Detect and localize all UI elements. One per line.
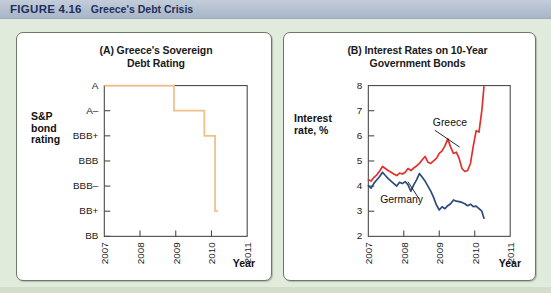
- panel-b-x-tick-label: 2010: [470, 242, 481, 265]
- panel-b-y-tick-label: 7: [357, 105, 363, 116]
- panel-b-x-tick-label: 2009: [434, 242, 445, 265]
- figure-header-text: FIGURE 4.16 Greece's Debt Crisis: [10, 3, 193, 15]
- panel-b-y-tick-label: 8: [357, 80, 363, 91]
- panel-a-y-tick-label: BBB+: [73, 130, 99, 141]
- panel-a-y-tick-label: A–: [86, 105, 99, 116]
- panel-b-germany-label: Germany: [380, 194, 424, 205]
- panel-b-plot: 234567820072008200920102011GreeceGermany: [284, 33, 535, 280]
- panel-b-y-tick-label: 5: [357, 155, 363, 166]
- figure-header-bar: FIGURE 4.16 Greece's Debt Crisis: [0, 0, 551, 19]
- panel-b-x-tick-label: 2011: [505, 242, 516, 264]
- panel-a-x-tick-label: 2009: [171, 242, 182, 265]
- panel-b-x-tick-label: 2007: [363, 242, 374, 265]
- panel-a-y-tick-label: BBB–: [73, 180, 99, 191]
- panel-b-x-tick-label: 2008: [399, 242, 410, 265]
- panel-b-greece-label: Greece: [433, 117, 467, 128]
- panel-a-y-tick-label: BB: [85, 230, 99, 241]
- panel-b-plot-frame: [368, 86, 510, 237]
- panel-a-x-tick-label: 2007: [99, 242, 110, 265]
- figure-number: 4.16: [58, 3, 81, 15]
- panel-a-plot: AA–BBB+BBBBBB–BB+BB20072008200920102011: [17, 33, 271, 280]
- panel-b-y-tick-label: 3: [357, 205, 363, 216]
- panel-a-y-tick-label: A: [92, 80, 99, 91]
- panel-a-plot-frame: [104, 86, 247, 237]
- panel-b-y-tick-label: 4: [357, 180, 363, 191]
- figure-canvas: (A) Greece's Sovereign Debt Rating S&P b…: [0, 19, 551, 293]
- panel-a-rating-step-line: [104, 86, 218, 212]
- panel-b-interest-rates: (B) Interest Rates on 10-Year Government…: [283, 32, 536, 281]
- figure-word: FIGURE: [10, 3, 55, 15]
- panel-b-y-tick-label: 6: [357, 130, 363, 141]
- figure-root: FIGURE 4.16 Greece's Debt Crisis (A) Gre…: [0, 0, 551, 293]
- panel-a-y-tick-label: BB+: [79, 205, 98, 216]
- panel-b-series-greece-line: [368, 87, 484, 181]
- panel-a-x-tick-label: 2008: [135, 242, 146, 265]
- panel-b-y-tick-label: 2: [357, 230, 363, 241]
- panel-b-greece-leader-line: [435, 130, 460, 147]
- panel-a-x-tick-label: 2010: [206, 242, 217, 265]
- figure-title: Greece's Debt Crisis: [91, 3, 193, 15]
- panel-a-sovereign-debt-rating: (A) Greece's Sovereign Debt Rating S&P b…: [16, 32, 272, 281]
- panel-a-y-tick-label: BBB: [79, 155, 99, 166]
- panel-a-x-tick-label: 2011: [242, 242, 253, 264]
